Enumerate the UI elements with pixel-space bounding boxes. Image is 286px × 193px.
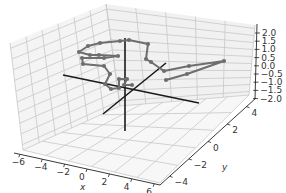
x-tick-label: 0 [79, 172, 85, 182]
data-point-marker [117, 77, 121, 81]
z-axis: 2.01.51.00.50.0−0.5−1.0−1.5−2.0 [253, 24, 283, 104]
data-point-marker [88, 53, 92, 57]
data-point-marker [80, 56, 84, 60]
data-point-marker [117, 86, 121, 90]
data-point-marker [103, 82, 107, 86]
data-point-marker [149, 60, 153, 64]
data-point-marker [81, 62, 85, 66]
x-tick-label: 2 [101, 177, 107, 187]
x-axis-label: x [79, 182, 86, 192]
x-tick-label: −4 [34, 162, 48, 172]
data-point-marker [109, 87, 113, 91]
y-tick-label: 2 [232, 125, 238, 135]
data-point-marker [130, 83, 134, 87]
data-point-marker [77, 50, 81, 54]
x-tick-label: 4 [124, 182, 130, 192]
data-point-marker [102, 56, 106, 60]
y-tick-label: 4 [251, 108, 257, 118]
data-point-marker [146, 42, 150, 46]
x-tick-label: 6 [146, 187, 152, 193]
data-point-marker [222, 59, 226, 63]
data-point-marker [118, 39, 122, 43]
data-point-marker [162, 69, 166, 73]
data-point-marker [187, 64, 191, 68]
data-point-marker [97, 53, 101, 57]
y-tick-label: −4 [175, 177, 189, 187]
data-point-marker [185, 72, 189, 76]
data-point-marker [122, 83, 126, 87]
x-tick-label: −6 [12, 157, 26, 167]
y-axis-label: y [221, 162, 228, 172]
data-point-marker [144, 57, 148, 61]
3d-line-plot: −6−4−20246 x −4−2024 y 2.01.51.00.50.0−0… [0, 0, 286, 193]
data-point-marker [116, 54, 120, 58]
y-tick-label: −2 [194, 160, 207, 170]
data-point-marker [102, 64, 106, 68]
data-point-marker [164, 78, 168, 82]
data-point-marker [127, 38, 131, 42]
y-tick-label: 0 [213, 143, 219, 153]
data-point-marker [86, 44, 90, 48]
data-point-marker [98, 41, 102, 45]
data-point-marker [125, 77, 129, 81]
right-pane [106, 4, 255, 106]
data-point-marker [108, 72, 112, 76]
z-tick-label: −2.0 [260, 94, 282, 104]
x-tick-label: −2 [57, 167, 70, 177]
